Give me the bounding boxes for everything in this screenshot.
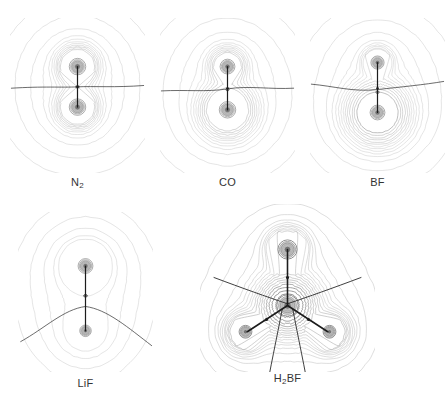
bond-critical-point (286, 276, 289, 279)
panel-label-text: H (274, 372, 282, 384)
panel-label-bf: BF (310, 176, 445, 188)
panel-label-text: LiF (77, 377, 93, 389)
electron-density-figure: N2COBFLiFH2BF (0, 0, 448, 407)
panel-label-co: CO (160, 176, 295, 188)
panel-label-subscript: 2 (79, 181, 84, 190)
bond-critical-point (226, 87, 228, 89)
bond-critical-point (307, 318, 310, 321)
panel-label-h2bf: H2BF (200, 372, 375, 386)
bond-critical-point (376, 87, 378, 89)
bond-critical-point (76, 86, 78, 88)
panel-label-text: N (71, 176, 79, 188)
bond-critical-points-co (226, 87, 228, 89)
panel-label-lif: LiF (18, 377, 153, 389)
panel-co (160, 18, 295, 173)
panel-label-text: BF (370, 176, 385, 188)
panel-label-text: CO (219, 176, 236, 188)
contour-map-h2bf (200, 204, 375, 372)
panel-n2 (10, 18, 145, 173)
contour-map-lif (18, 212, 153, 372)
contour-map-co (160, 18, 295, 173)
panel-label-n2: N2 (10, 176, 145, 190)
bond-critical-points-n2 (76, 86, 78, 88)
panel-h2bf (200, 204, 375, 372)
panel-label-suffix: BF (287, 372, 302, 384)
panel-bf (310, 18, 445, 173)
contour-map-bf (310, 18, 445, 173)
bond-critical-point (265, 318, 268, 321)
panel-lif (18, 212, 153, 372)
bond-critical-points-bf (376, 87, 378, 89)
contour-map-n2 (10, 18, 145, 173)
